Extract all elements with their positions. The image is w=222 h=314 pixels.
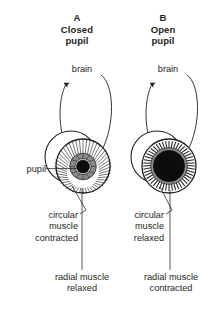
arrow-brain-to-eye-a: [101, 75, 112, 152]
panel-b-circular-muscle-label: circular muscle relaxed: [100, 210, 164, 244]
pupil-b: [154, 151, 185, 182]
panel-b-title: B Open pupil: [128, 12, 198, 47]
panel-a-circular-muscle-label: circular muscle contracted: [14, 210, 78, 244]
panel-b-radial-muscle-label: radial muscle contracted: [124, 272, 218, 295]
pupil-reflex-diagram: [0, 0, 222, 314]
panel-b-brain-label: brain: [140, 64, 196, 75]
panel-a-radial-muscle-label: radial muscle relaxed: [38, 272, 126, 295]
arrow-brain-to-eye-b: [187, 75, 198, 152]
panel-a-brain-label: brain: [54, 64, 110, 75]
pupil-a: [76, 160, 89, 173]
pupil-label: pupil: [2, 164, 46, 175]
panel-a-title: A Closed pupil: [42, 12, 112, 47]
